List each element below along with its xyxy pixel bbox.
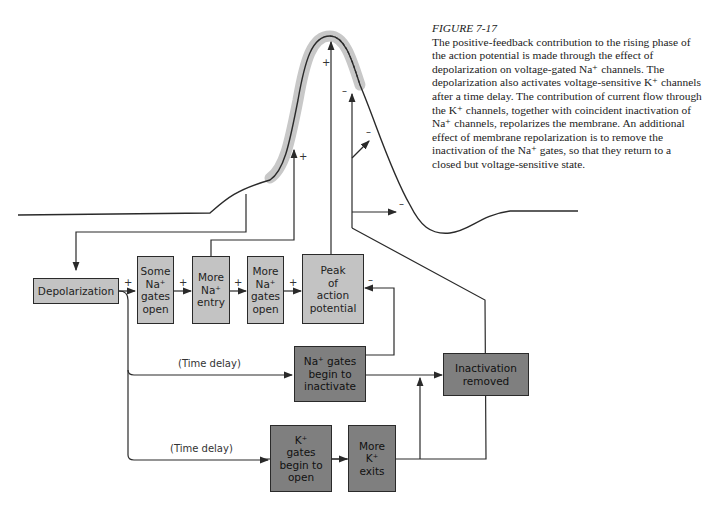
box-more-k-exits: More K⁺ exits	[348, 425, 396, 492]
minus-sign: –	[366, 126, 371, 137]
plus-sign: +	[234, 277, 242, 288]
box-more-na-gates-open: More Na⁺ gates open	[247, 256, 284, 324]
box-label: entry	[197, 296, 225, 309]
box-label: inactivate	[304, 380, 356, 393]
box-label: Na⁺ gates	[304, 355, 356, 368]
box-label: potential	[310, 302, 357, 315]
minus-sign: –	[368, 274, 373, 285]
box-label: K⁺	[366, 452, 378, 465]
plus-sign: +	[322, 57, 330, 68]
figure-label: FIGURE 7-17	[432, 22, 702, 36]
box-label: Peak	[321, 264, 346, 277]
box-na-gates-inactivate: Na⁺ gates begin to inactivate	[294, 346, 366, 402]
plus-sign: +	[124, 277, 132, 288]
rising-phase-highlight	[270, 36, 360, 178]
box-label: action	[317, 289, 349, 302]
box-label: Inactivation	[455, 362, 517, 375]
box-more-na-entry: More Na⁺ entry	[192, 256, 230, 324]
box-label: begin to	[279, 459, 322, 472]
box-label: open	[252, 303, 278, 316]
plus-sign: +	[179, 277, 187, 288]
box-label: Some	[141, 265, 171, 278]
box-label: begin to	[308, 368, 351, 381]
minus-sign: –	[399, 198, 404, 209]
box-label: open	[288, 471, 314, 484]
box-label: More	[252, 265, 278, 278]
box-label: open	[142, 303, 168, 316]
box-label: More	[198, 271, 224, 284]
time-delay-label: (Time delay)	[178, 358, 241, 369]
plus-sign: +	[289, 277, 297, 288]
box-depolarization: Depolarization	[33, 278, 119, 304]
box-label: K⁺	[295, 434, 307, 447]
caption-text: The positive-feedback contribution to th…	[432, 36, 702, 170]
box-label: More	[359, 440, 385, 453]
box-label: removed	[463, 375, 510, 388]
minus-sign: –	[342, 85, 347, 96]
box-label: gates	[141, 290, 170, 303]
box-some-na-gates-open: Some Na⁺ gates open	[137, 256, 174, 324]
box-label: gates	[251, 290, 280, 303]
box-k-gates-open: K⁺ gates begin to open	[270, 425, 332, 492]
box-label: gates	[286, 446, 315, 459]
box-label: exits	[360, 465, 385, 478]
time-delay-label: (Time delay)	[170, 443, 233, 454]
box-label: Na⁺	[201, 284, 221, 297]
box-inactivation-removed: Inactivation removed	[443, 353, 529, 396]
box-label: Na⁺	[146, 278, 166, 291]
box-peak-action-potential: Peak of action potential	[302, 254, 364, 324]
plus-sign: +	[299, 151, 307, 162]
box-label: Na⁺	[256, 278, 276, 291]
box-label: Depolarization	[38, 285, 114, 298]
box-label: of	[328, 277, 338, 290]
figure-caption: FIGURE 7-17 The positive-feedback contri…	[432, 22, 702, 172]
